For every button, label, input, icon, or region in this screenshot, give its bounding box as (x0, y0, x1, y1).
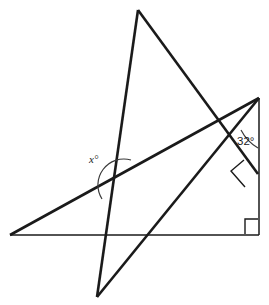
right-angle-square-tilted (231, 160, 245, 187)
triangle-right-side (138, 10, 258, 174)
angle-label-x: x° (89, 154, 98, 165)
geometry-canvas (0, 0, 269, 305)
right-angle-square-corner (245, 219, 258, 234)
angle-label-32-degrees: 32° (237, 136, 254, 148)
geometry-figure: x° 32° (0, 0, 269, 305)
transversal-line (10, 98, 259, 235)
